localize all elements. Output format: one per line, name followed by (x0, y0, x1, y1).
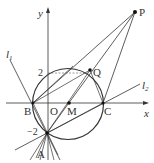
tick-label-2: 2 (38, 67, 43, 78)
label-l1: l1 (6, 48, 13, 62)
point-p (133, 10, 137, 14)
label-c: C (104, 105, 111, 117)
point-b (32, 102, 35, 105)
y-axis-arrow-icon (46, 7, 50, 13)
x-axis-label: x (143, 107, 149, 119)
geometry-diagram: y x O 2 −2 P Q B M C A l1 l2 (0, 0, 154, 163)
label-b: B (24, 105, 31, 117)
point-a (45, 131, 49, 135)
x-axis-arrow-icon (143, 101, 149, 105)
label-p: P (139, 6, 145, 18)
axes (6, 7, 149, 160)
label-l2: l2 (142, 79, 149, 93)
y-axis-label: y (37, 7, 43, 19)
label-m: M (67, 105, 77, 117)
origin-label: O (50, 105, 58, 117)
point-q (88, 68, 92, 72)
tick-label-neg2: −2 (27, 126, 38, 137)
label-a: A (37, 148, 45, 160)
label-q: Q (93, 66, 101, 78)
